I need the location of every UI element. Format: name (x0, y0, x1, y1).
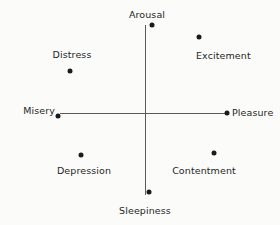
point-label-pleasure: Pleasure (232, 107, 273, 118)
point-label-arousal: Arousal (129, 9, 165, 20)
vertical-axis (145, 25, 146, 195)
data-point-arousal (150, 23, 155, 28)
point-label-misery: Misery (23, 105, 55, 116)
data-point-pleasure (225, 111, 230, 116)
data-point-misery (56, 114, 61, 119)
horizontal-axis (60, 113, 228, 114)
data-point-sleepiness (147, 190, 152, 195)
point-label-depression: Depression (57, 165, 111, 176)
data-point-contentment (212, 151, 217, 156)
point-label-distress: Distress (53, 49, 92, 60)
point-label-sleepiness: Sleepiness (119, 205, 171, 216)
circumplex-affect-diagram: ArousalExcitementDistressMiseryPleasureD… (0, 0, 280, 225)
data-point-excitement (197, 35, 202, 40)
point-label-excitement: Excitement (196, 50, 251, 61)
point-label-contentment: Contentment (172, 165, 236, 176)
data-point-distress (68, 69, 73, 74)
data-point-depression (79, 153, 84, 158)
